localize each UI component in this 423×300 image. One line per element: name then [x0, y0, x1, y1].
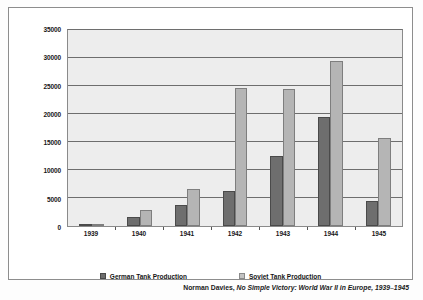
bar-group [175, 30, 200, 226]
caption-author: Norman Davies, [183, 284, 234, 291]
x-axis-tick-label: 1944 [324, 230, 338, 237]
bar-german-1945 [366, 201, 378, 226]
figure-frame: 05000100001500020000250003000035000 1939… [8, 7, 413, 280]
legend-swatch-icon [100, 273, 106, 279]
bar-chart: 05000100001500020000250003000035000 1939… [22, 21, 407, 253]
bar-german-1939 [79, 224, 91, 226]
legend-item: Soviet Tank Production [239, 273, 321, 280]
figure-caption: Norman Davies, No Simple Victory: World … [0, 284, 409, 291]
bar-german-1941 [175, 205, 187, 226]
y-axis-tick-label: 30000 [43, 54, 61, 61]
bar-group [366, 30, 391, 226]
y-axis-tick-label: 15000 [43, 139, 61, 146]
bar-soviet-1945 [378, 138, 390, 226]
y-axis-tick-label: 5000 [47, 195, 61, 202]
bar-group [127, 30, 152, 226]
x-axis-tick-label: 1945 [372, 230, 386, 237]
x-axis-tickmark [163, 227, 164, 230]
bar-group [318, 30, 343, 226]
x-axis-tickmark [355, 227, 356, 230]
bar-soviet-1939 [92, 224, 104, 226]
y-axis-tick-label: 10000 [43, 167, 61, 174]
x-axis-tickmark [259, 227, 260, 230]
figure: 05000100001500020000250003000035000 1939… [0, 0, 423, 300]
x-axis-tick-label: 1943 [276, 230, 290, 237]
bar-soviet-1944 [330, 61, 342, 226]
y-axis-tick-label: 0 [57, 224, 61, 231]
bar-soviet-1941 [187, 189, 199, 226]
legend-label: German Tank Production [110, 273, 187, 280]
bar-group [223, 30, 248, 226]
bar-german-1944 [318, 117, 330, 226]
bar-soviet-1942 [235, 88, 247, 226]
x-axis-tick-label: 1942 [228, 230, 242, 237]
x-axis-tick-label: 1939 [84, 230, 98, 237]
y-axis-tick-label: 35000 [43, 26, 61, 33]
bar-group [79, 30, 104, 226]
x-axis-tickmark [307, 227, 308, 230]
x-axis-tickmark [211, 227, 212, 230]
y-axis-tick-label: 25000 [43, 82, 61, 89]
x-axis-tick-label: 1940 [132, 230, 146, 237]
bar-group [270, 30, 295, 226]
bar-soviet-1943 [283, 89, 295, 226]
y-axis-tick-label: 20000 [43, 110, 61, 117]
x-axis-tickmark [115, 227, 116, 230]
legend-swatch-icon [239, 273, 245, 279]
y-axis: 05000100001500020000250003000035000 [22, 29, 64, 227]
caption-title: No Simple Victory: World War II in Europ… [237, 284, 410, 291]
bar-soviet-1940 [140, 210, 152, 226]
legend-item: German Tank Production [100, 273, 187, 280]
chart-legend: German Tank ProductionSoviet Tank Produc… [22, 270, 399, 282]
bar-german-1940 [127, 217, 139, 226]
bar-german-1943 [270, 156, 282, 226]
bar-german-1942 [223, 191, 235, 226]
x-axis: 1939194019411942194319441945 [67, 230, 403, 244]
plot-area [67, 29, 403, 227]
legend-label: Soviet Tank Production [249, 273, 321, 280]
x-axis-tick-label: 1941 [180, 230, 194, 237]
